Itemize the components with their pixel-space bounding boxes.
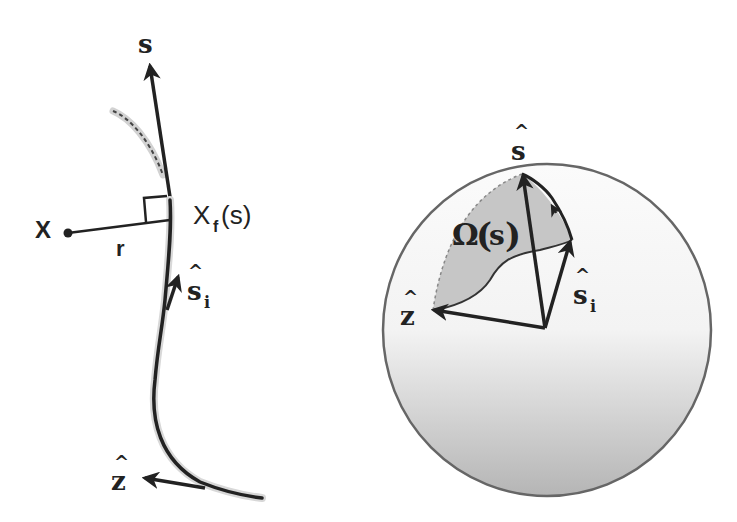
s-hat-label: ^ s bbox=[511, 121, 529, 166]
fiber-diagram: s X r X f (s) ^ s i ^ z bbox=[35, 29, 262, 498]
s-subscript: i bbox=[590, 297, 596, 316]
xf-subscript: f bbox=[213, 218, 219, 235]
r-distance-line bbox=[68, 220, 170, 233]
sphere-diagram: ^ s Ω ( s ) ^ s i ^ z bbox=[383, 121, 711, 496]
s-hat-i-label-left: ^ s i bbox=[187, 261, 210, 312]
omega-symbol: Ω bbox=[452, 217, 479, 252]
r-distance-label: r bbox=[116, 236, 125, 261]
xf-argument: (s) bbox=[221, 200, 251, 230]
projected-curve-halo bbox=[113, 111, 163, 175]
z-main: z bbox=[111, 466, 126, 496]
right-angle-marker bbox=[144, 196, 167, 222]
s-main: s bbox=[187, 276, 202, 306]
z-hat-label-left: ^ z bbox=[111, 452, 129, 496]
s-main: s bbox=[511, 136, 526, 166]
omega-argument: s bbox=[489, 219, 505, 252]
omega-s-label: Ω ( s ) bbox=[452, 215, 521, 255]
xf-s-label: X f (s) bbox=[193, 200, 251, 235]
s-main: s bbox=[573, 280, 588, 310]
s-axis-arrow bbox=[150, 66, 172, 210]
fiber-curve bbox=[154, 200, 262, 498]
xf-main: X bbox=[193, 200, 210, 230]
diagram-canvas: s X r X f (s) ^ s i ^ z bbox=[0, 0, 737, 522]
z-main: z bbox=[400, 301, 415, 331]
x-point-label: X bbox=[35, 216, 51, 243]
s-axis-label: s bbox=[138, 29, 153, 59]
s-subscript: i bbox=[204, 293, 210, 312]
omega-paren-close: ) bbox=[505, 215, 521, 255]
